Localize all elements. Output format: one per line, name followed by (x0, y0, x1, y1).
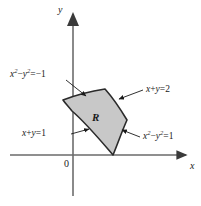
ul-value: −1 (36, 69, 46, 79)
lr-value: 1 (169, 131, 174, 141)
label-upper-right-line: x+y=2 (146, 85, 170, 95)
origin-label: 0 (64, 159, 69, 169)
ur-value: 2 (165, 84, 170, 94)
y-axis-label: y (58, 5, 62, 15)
leader-upper-left (66, 80, 86, 96)
ll-value: 1 (41, 128, 46, 138)
leader-lower-right (122, 130, 140, 137)
math-figure: y x 0 R x2−y2=−1 x+y=2 x+y=1 x2−y2=1 (0, 0, 201, 206)
leader-upper-right (119, 90, 143, 99)
figure-canvas (0, 0, 201, 206)
region-label: R (92, 112, 99, 123)
label-upper-left-curve: x2−y2=−1 (10, 70, 46, 80)
label-lower-right-curve: x2−y2=1 (143, 132, 173, 142)
x-axis-label: x (190, 161, 194, 171)
label-lower-left-line: x+y=1 (22, 129, 46, 139)
